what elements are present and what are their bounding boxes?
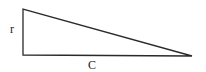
right-triangle	[23, 9, 192, 56]
label-r: r	[10, 22, 14, 36]
triangle-diagram: r C	[0, 0, 206, 72]
label-c: C	[88, 58, 96, 72]
